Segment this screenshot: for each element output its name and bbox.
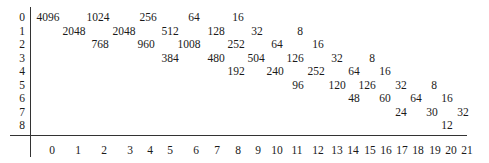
row-label: 0 [17, 11, 27, 23]
table-cell: 32 [383, 79, 419, 91]
row-label: 5 [17, 79, 27, 91]
table-cell: 96 [280, 79, 316, 91]
table-cell: 1024 [80, 11, 116, 23]
table-cell: 126 [349, 79, 385, 91]
column-label: 21 [457, 144, 477, 156]
table-cell: 504 [238, 52, 274, 64]
table-cell: 480 [198, 52, 234, 64]
table-cell: 64 [259, 38, 295, 50]
table-cell: 4096 [30, 11, 66, 23]
table-cell: 32 [445, 106, 481, 118]
column-label: 9 [248, 144, 268, 156]
table-cell: 960 [128, 38, 164, 50]
column-label: 4 [140, 144, 160, 156]
table-cell: 8 [282, 25, 318, 37]
table-cell: 16 [220, 11, 256, 23]
table-cell: 16 [429, 92, 465, 104]
row-label: 3 [17, 52, 27, 64]
row-label: 7 [17, 106, 27, 118]
column-label: 7 [207, 144, 227, 156]
table-cell: 126 [277, 52, 313, 64]
column-label: 1 [68, 144, 88, 156]
row-label: 4 [17, 65, 27, 77]
column-label: 11 [287, 144, 307, 156]
table-cell: 8 [416, 79, 452, 91]
table-cell: 384 [152, 52, 188, 64]
column-label: 12 [308, 144, 328, 156]
table-cell: 1008 [171, 38, 207, 50]
row-label: 1 [17, 25, 27, 37]
table-cell: 256 [130, 11, 166, 23]
table-cell: 12 [429, 119, 465, 131]
column-label: 2 [94, 144, 114, 156]
table-cell: 512 [152, 25, 188, 37]
table-cell: 2048 [106, 25, 142, 37]
table-cell: 16 [367, 65, 403, 77]
table-cell: 32 [319, 52, 355, 64]
column-label: 0 [42, 144, 62, 156]
table-cell: 252 [218, 38, 254, 50]
column-label: 10 [267, 144, 287, 156]
table-cell: 8 [354, 52, 390, 64]
table-cell: 16 [300, 38, 336, 50]
row-label: 6 [17, 92, 27, 104]
table-cell: 128 [198, 25, 234, 37]
horizontal-axis-line [10, 135, 467, 136]
row-label: 2 [17, 38, 27, 50]
table-cell: 252 [298, 65, 334, 77]
column-label: 8 [228, 144, 248, 156]
table-cell: 240 [257, 65, 293, 77]
table-cell: 192 [218, 65, 254, 77]
table-cell: 768 [82, 38, 118, 50]
column-label: 5 [160, 144, 180, 156]
column-label: 6 [186, 144, 206, 156]
table-cell: 64 [176, 11, 212, 23]
table-cell: 32 [239, 25, 275, 37]
table-cell: 2048 [56, 25, 92, 37]
row-label: 8 [17, 119, 27, 131]
column-label: 3 [120, 144, 140, 156]
